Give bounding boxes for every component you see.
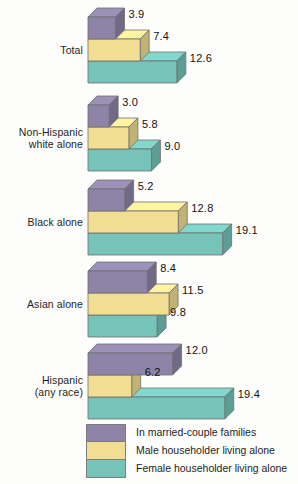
- legend-swatch: [86, 424, 126, 442]
- bar-value-label: 11.5: [182, 285, 203, 296]
- bar-value-label: 9.0: [164, 141, 180, 152]
- legend-label: Female householder living alone: [136, 462, 287, 475]
- bar-stack: 3.05.89.0: [0, 96, 298, 177]
- bar-value-label: 12.8: [191, 203, 213, 214]
- bar-value-label: 12.0: [186, 345, 208, 356]
- bar-front-face: [88, 105, 109, 127]
- bar-value-label: 3.9: [128, 9, 144, 20]
- bar-3d: [79, 180, 127, 213]
- bar-front-face: [88, 17, 115, 39]
- bar-3d: [79, 96, 111, 129]
- legend-label: In married-couple families: [136, 426, 256, 439]
- bar-3d: [79, 8, 117, 41]
- bar-top-face: [88, 344, 182, 353]
- bar-front-face: [88, 61, 177, 83]
- bar-front-face: [88, 293, 169, 315]
- legend-item: Female householder living alone: [86, 460, 298, 478]
- bar-value-label: 3.0: [122, 97, 138, 108]
- bar-front-face: [88, 39, 140, 61]
- bar-value-label: 12.6: [190, 53, 212, 64]
- bar-front-face: [88, 375, 132, 397]
- bar-stack: 8.411.59.8: [0, 262, 298, 343]
- bar-group: Black alone5.212.819.1: [0, 180, 298, 261]
- bar-front-face: [88, 271, 147, 293]
- bar-value-label: 9.8: [170, 307, 186, 318]
- bar-stack: 12.06.219.4: [0, 344, 298, 425]
- legend-swatch: [86, 460, 126, 478]
- bar-top-face: [88, 262, 156, 271]
- bar-front-face: [88, 233, 223, 255]
- bar-front-face: [88, 211, 178, 233]
- bar-chart: Total3.97.412.6Non-Hispanicwhite alone3.…: [0, 0, 298, 484]
- legend-label: Male householder living alone: [136, 444, 275, 457]
- bar-value-label: 19.1: [236, 225, 258, 236]
- bar-front-face: [88, 397, 225, 419]
- legend-item: In married-couple families: [86, 424, 298, 442]
- bar-stack: 5.212.819.1: [0, 180, 298, 261]
- bar-group: Total3.97.412.6: [0, 8, 298, 89]
- bar-value-label: 5.2: [138, 181, 154, 192]
- bar-3d: [79, 262, 149, 295]
- bar-front-face: [88, 315, 157, 337]
- legend-item: Male householder living alone: [86, 442, 298, 460]
- chart-legend: In married-couple familiesMale household…: [86, 424, 298, 478]
- bar-stack: 3.97.412.6: [0, 8, 298, 89]
- bar-value-label: 6.2: [145, 367, 161, 378]
- legend-swatch: [86, 442, 126, 460]
- bar-value-label: 7.4: [153, 31, 169, 42]
- bar-group: Asian alone8.411.59.8: [0, 262, 298, 343]
- bar-group: Non-Hispanicwhite alone3.05.89.0: [0, 96, 298, 177]
- bar-value-label: 5.8: [142, 119, 158, 130]
- bar-front-face: [88, 127, 129, 149]
- bar-front-face: [88, 189, 125, 211]
- bar-value-label: 8.4: [160, 263, 176, 274]
- bar-front-face: [88, 149, 151, 171]
- bar-group: Hispanic(any race)12.06.219.4: [0, 344, 298, 425]
- bar-value-label: 19.4: [238, 389, 260, 400]
